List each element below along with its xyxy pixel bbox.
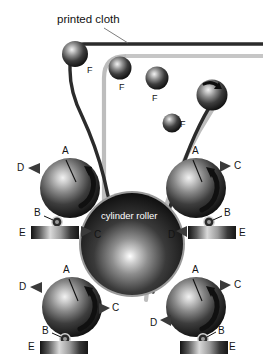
label-a-right-upper: A — [192, 146, 199, 156]
label-f-mid-right: F — [180, 120, 186, 129]
label-a-right-lower: A — [192, 265, 199, 275]
guide-roller-f-top-left[interactable] — [62, 41, 88, 67]
label-e-left-upper: E — [19, 228, 26, 238]
label-b-left-upper: B — [34, 208, 41, 218]
pad-e-left-lower — [40, 341, 88, 354]
cylinder-roller-label: cylinder roller — [101, 211, 158, 221]
pad-e-right-upper — [188, 226, 236, 239]
label-b-right-lower: B — [218, 326, 225, 336]
label-a-left-lower: A — [63, 265, 70, 275]
wedge-c-left-lower — [99, 303, 110, 314]
label-d-left-lower: D — [19, 282, 26, 292]
cylinder-roller[interactable] — [79, 191, 185, 297]
label-e-left-lower: E — [28, 342, 35, 352]
label-c-left-upper: C — [94, 230, 101, 240]
wedge-c-right-upper — [220, 161, 231, 172]
wedge-d-right-lower — [160, 315, 171, 326]
label-d-right-lower: D — [150, 318, 157, 328]
guide-roller-f-upper-right[interactable] — [197, 80, 228, 111]
label-a-left-upper: A — [62, 146, 69, 156]
label-f-top-right: F — [152, 94, 158, 103]
wedge-d-left-upper — [28, 163, 40, 174]
label-c-right-upper: C — [234, 161, 241, 171]
label-d-left-upper: D — [17, 163, 24, 173]
label-c-left-lower: C — [112, 303, 119, 313]
label-e-right-lower: E — [229, 342, 236, 352]
label-d-right-upper: D — [168, 230, 175, 240]
label-f-top-left: F — [87, 66, 93, 75]
label-b-left-lower: B — [42, 326, 49, 336]
pad-e-left-upper — [31, 226, 79, 239]
guide-roller-f-top-right[interactable] — [146, 67, 169, 90]
label-c-right-lower: C — [234, 280, 241, 290]
printed-cloth-title: printed cloth — [57, 14, 120, 26]
machine-schematic-svg — [0, 0, 263, 364]
label-e-right-upper: E — [239, 228, 246, 238]
roller-unit-left-lower[interactable] — [30, 277, 110, 354]
wedge-c-right-lower — [220, 280, 231, 291]
diagram-canvas: printed cloth cylinder roller F F F F A … — [0, 0, 263, 364]
label-b-right-upper: B — [224, 208, 231, 218]
guide-roller-f-top-mid[interactable] — [109, 57, 132, 80]
guide-roller-f-mid-right[interactable] — [163, 114, 182, 133]
wedge-d-left-lower — [30, 282, 42, 293]
pad-e-right-lower — [180, 341, 228, 354]
roller-unit-right-lower[interactable] — [160, 277, 231, 354]
label-f-top-mid: F — [119, 83, 125, 92]
title-leader-line — [104, 28, 128, 43]
